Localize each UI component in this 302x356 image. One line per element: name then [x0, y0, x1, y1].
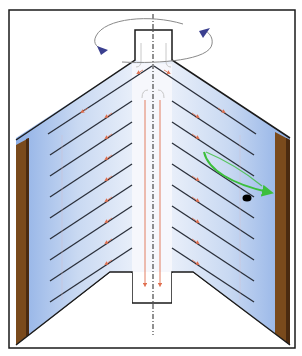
central-channel [132, 64, 172, 272]
particle [243, 195, 252, 202]
centrifuge-diagram [0, 0, 302, 356]
bowl-wall-left-shade [26, 138, 29, 337]
bowl-wall-right-shade [286, 138, 290, 345]
